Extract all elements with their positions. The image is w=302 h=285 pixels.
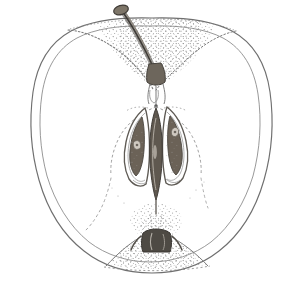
calyx-remnant bbox=[142, 229, 172, 252]
apple-section-drawing bbox=[0, 0, 302, 285]
apple-illustration-figure: Apple fruit in longitudinal section appl… bbox=[0, 0, 302, 285]
stem-base bbox=[147, 63, 166, 85]
